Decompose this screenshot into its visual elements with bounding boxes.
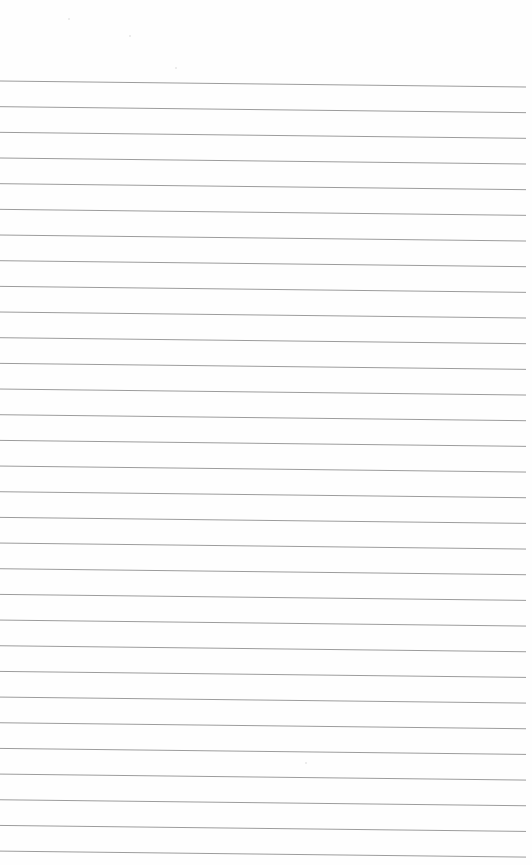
ruled-line [0,363,526,369]
paper-speck [305,762,307,764]
ruled-line [0,338,526,344]
ruled-line [0,748,526,754]
ruled-line [0,158,526,164]
ruled-line [0,851,526,857]
ruled-line [0,620,526,626]
ruled-line [0,389,526,395]
paper-speck [175,67,177,69]
ruled-line [0,671,526,677]
ruled-line [0,286,526,292]
ruled-line [0,594,526,600]
ruled-line [0,774,526,780]
ruled-line [0,646,526,652]
ruled-line [0,261,526,267]
ruled-line [0,697,526,703]
ruled-line [0,312,526,318]
ruled-line [0,107,526,113]
ruled-line [0,132,526,138]
paper-speck [68,18,70,20]
ruled-line [0,800,526,806]
paper-speck [129,35,131,37]
ruled-line [0,81,526,87]
ruled-lines [0,0,532,865]
ruled-line [0,466,526,472]
ruled-line [0,184,526,190]
ruled-line [0,209,526,215]
ruled-line [0,517,526,523]
ruled-line [0,723,526,729]
ruled-line [0,440,526,446]
ruled-line [0,492,526,498]
ruled-line [0,543,526,549]
ruled-line [0,569,526,575]
lined-paper-sheet [0,0,532,865]
ruled-line [0,415,526,421]
ruled-line [0,825,526,831]
ruled-line [0,235,526,241]
